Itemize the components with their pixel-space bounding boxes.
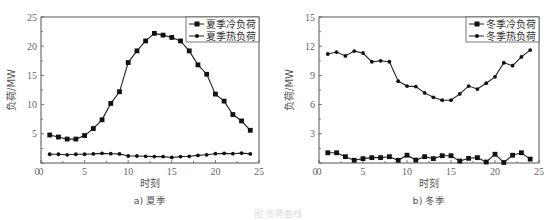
square-marker-icon: [431, 156, 436, 161]
dot-marker-icon: [370, 60, 374, 64]
x-tick-label: 20: [210, 166, 220, 177]
legend: 冬季冷负荷 冬季热负荷: [466, 17, 539, 42]
square-marker-icon: [440, 153, 445, 158]
square-marker-icon: [343, 154, 348, 159]
legend-label: 夏季热负荷: [206, 30, 256, 42]
square-marker-icon: [334, 150, 339, 155]
series-line: [50, 33, 251, 139]
chart-panel-summer: 05101520255101520250 夏季冷负荷 夏季热负荷 负荷/MW 时…: [5, 12, 264, 207]
dot-marker-icon: [432, 95, 436, 99]
square-marker-icon: [422, 154, 427, 159]
dot-marker-icon: [100, 151, 104, 155]
square-marker-icon: [519, 150, 524, 155]
dot-marker-icon: [475, 34, 479, 38]
square-marker-icon: [325, 150, 330, 155]
x-axis-title: 时刻: [419, 177, 439, 189]
square-marker-icon: [387, 154, 392, 159]
square-marker-icon: [230, 112, 235, 117]
legend-label: 冬季冷负荷: [486, 18, 536, 30]
dot-marker-icon: [449, 98, 453, 102]
data-series: [325, 48, 532, 165]
square-marker-icon: [239, 119, 244, 124]
dot-marker-icon: [528, 48, 532, 52]
dot-marker-icon: [152, 155, 156, 159]
dot-marker-icon: [335, 50, 339, 54]
series-line: [50, 153, 251, 157]
dot-marker-icon: [240, 151, 244, 155]
dot-marker-icon: [48, 152, 52, 156]
square-marker-icon: [169, 35, 174, 40]
square-marker-icon: [413, 158, 418, 163]
square-marker-icon: [352, 158, 357, 163]
x-tick-label: 10: [402, 166, 412, 177]
square-marker-icon: [47, 133, 52, 138]
dot-marker-icon: [379, 59, 383, 63]
square-marker-icon: [510, 153, 515, 158]
square-marker-icon: [475, 22, 480, 27]
dot-marker-icon: [205, 153, 209, 157]
dot-marker-icon: [135, 154, 139, 158]
dot-marker-icon: [91, 152, 95, 156]
dot-marker-icon: [484, 81, 488, 85]
dot-marker-icon: [195, 34, 199, 38]
dot-marker-icon: [231, 152, 235, 156]
origin-label: 0: [313, 166, 318, 177]
y-tick-label: 20: [27, 41, 37, 52]
dot-marker-icon: [423, 91, 427, 95]
x-tick-label: 25: [254, 166, 264, 177]
square-marker-icon: [126, 60, 131, 65]
dot-marker-icon: [74, 152, 78, 156]
x-tick-label: 15: [446, 166, 456, 177]
dot-marker-icon: [118, 152, 122, 156]
dot-marker-icon: [161, 155, 165, 159]
dot-marker-icon: [109, 152, 113, 156]
y-tick-label: 10: [27, 99, 37, 110]
square-marker-icon: [378, 155, 383, 160]
square-marker-icon: [475, 155, 480, 160]
square-marker-icon: [195, 22, 200, 27]
square-marker-icon: [484, 160, 489, 165]
dot-marker-icon: [196, 154, 200, 158]
square-marker-icon: [73, 137, 78, 142]
dot-marker-icon: [361, 51, 365, 55]
dot-marker-icon: [467, 84, 471, 88]
chart-panel-winter: 051015202536912150 冬季冷负荷 冬季热负荷 负荷/MW 时刻 …: [283, 12, 544, 207]
square-marker-icon: [396, 158, 401, 163]
square-marker-icon: [82, 133, 87, 138]
x-tick-label: 5: [82, 166, 87, 177]
square-marker-icon: [91, 126, 96, 131]
square-marker-icon: [117, 89, 122, 94]
y-tick-label: 15: [27, 70, 37, 81]
square-marker-icon: [152, 31, 157, 36]
square-marker-icon: [196, 62, 201, 67]
dot-marker-icon: [344, 54, 348, 58]
x-tick-label: 20: [490, 166, 500, 177]
y-axis-title: 负荷/MW: [5, 69, 17, 111]
y-tick-label: 15: [305, 12, 315, 23]
subcaption: a) 夏季: [134, 195, 167, 206]
dot-marker-icon: [214, 152, 218, 156]
square-marker-icon: [161, 33, 166, 38]
dot-marker-icon: [520, 55, 524, 59]
square-marker-icon: [449, 153, 454, 158]
legend-label: 夏季冷负荷: [206, 18, 256, 30]
dot-marker-icon: [476, 87, 480, 91]
square-marker-icon: [248, 128, 253, 133]
y-tick-label: 9: [310, 70, 315, 81]
figure: 05101520255101520250 夏季冷负荷 夏季热负荷 负荷/MW 时…: [0, 0, 556, 220]
square-marker-icon: [213, 92, 218, 97]
square-marker-icon: [178, 39, 183, 44]
subcaption: b) 冬季: [413, 195, 446, 206]
square-marker-icon: [187, 48, 192, 53]
dot-marker-icon: [83, 152, 87, 156]
series-line: [328, 50, 530, 100]
x-axis-title: 时刻: [140, 177, 160, 189]
dot-marker-icon: [405, 84, 409, 88]
square-marker-icon: [222, 99, 227, 104]
dot-marker-icon: [352, 49, 356, 53]
dot-marker-icon: [170, 156, 174, 160]
dot-marker-icon: [396, 79, 400, 83]
square-marker-icon: [135, 48, 140, 53]
x-tick-label: 25: [534, 166, 544, 177]
square-marker-icon: [204, 72, 209, 77]
